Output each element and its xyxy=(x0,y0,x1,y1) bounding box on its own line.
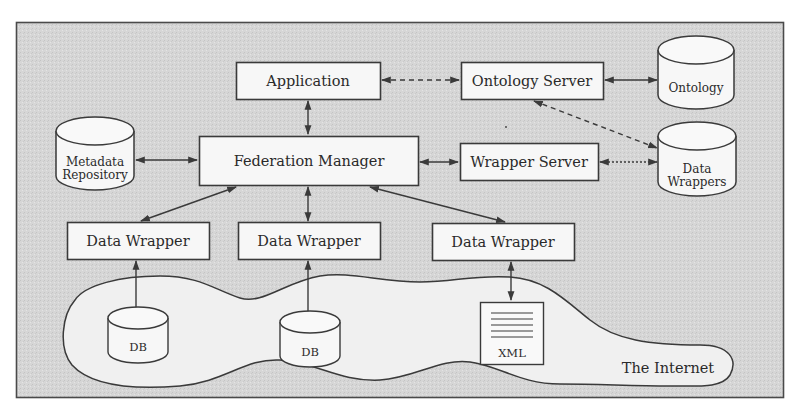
metadata-repository-database: Metadata Repository xyxy=(56,117,134,190)
data-wrappers-label-line2: Wrappers xyxy=(667,175,726,189)
application-node: Application xyxy=(237,63,381,100)
internet-label: The Internet xyxy=(622,360,715,376)
db-2-database: DB xyxy=(280,311,340,367)
data-wrapper-1-label: Data Wrapper xyxy=(86,233,189,249)
wrapper-server-node: Wrapper Server xyxy=(461,144,599,181)
ontology-server-label: Ontology Server xyxy=(472,73,592,89)
ontology-label: Ontology xyxy=(668,81,723,95)
data-wrappers-database: Data Wrappers xyxy=(658,122,736,196)
data-wrappers-label-line1: Data xyxy=(683,162,712,176)
wrapper-server-label: Wrapper Server xyxy=(470,154,588,170)
data-wrapper-3-label: Data Wrapper xyxy=(451,234,554,250)
federation-manager-node: Federation Manager xyxy=(200,137,419,186)
data-wrapper-3-node: Data Wrapper xyxy=(433,224,575,261)
ontology-database: Ontology xyxy=(658,36,734,109)
xml-document: XML xyxy=(481,303,544,365)
db-1-database: DB xyxy=(108,307,168,363)
stray-mark xyxy=(505,126,507,128)
db-1-label: DB xyxy=(129,340,147,354)
data-wrapper-2-node: Data Wrapper xyxy=(239,223,381,260)
metadata-repository-label-line2: Repository xyxy=(62,168,128,182)
db-2-label: DB xyxy=(301,345,319,359)
application-label: Application xyxy=(265,73,350,89)
xml-label: XML xyxy=(498,346,526,360)
metadata-repository-label-line1: Metadata xyxy=(66,155,124,169)
diagram-canvas: The Internet Application xyxy=(0,0,796,412)
federation-manager-label: Federation Manager xyxy=(234,153,385,169)
data-wrapper-1-node: Data Wrapper xyxy=(68,223,210,260)
data-wrapper-2-label: Data Wrapper xyxy=(257,233,360,249)
federated-architecture-diagram: The Internet Application xyxy=(0,0,796,412)
ontology-server-node: Ontology Server xyxy=(462,63,604,100)
